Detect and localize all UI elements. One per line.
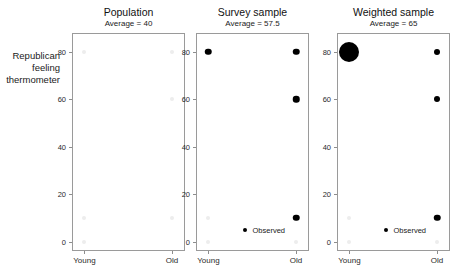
y-tick-mark (334, 147, 337, 148)
y-tick-mark (193, 194, 196, 195)
legend: Observed (243, 226, 285, 235)
x-tick-label: Old (431, 256, 443, 265)
y-tick-mark (69, 99, 72, 100)
legend-marker-icon (243, 228, 247, 232)
legend-label: Observed (393, 226, 426, 235)
legend-label: Observed (252, 226, 285, 235)
y-tick-mark (69, 147, 72, 148)
chart-panel: Weighted sampleAverage = 65020406080Youn… (337, 0, 450, 274)
data-point-observed (205, 49, 212, 56)
x-tick-mark (437, 251, 438, 254)
y-tick-mark (334, 99, 337, 100)
plot-area (72, 33, 185, 251)
data-point-population (435, 240, 439, 244)
legend: Observed (384, 226, 426, 235)
data-point-population (82, 50, 86, 54)
x-tick-mark (349, 251, 350, 254)
data-point-observed (434, 49, 440, 55)
data-point-observed (293, 96, 300, 103)
data-point-population (170, 216, 174, 220)
data-point-population (294, 240, 298, 244)
y-tick-mark (69, 242, 72, 243)
y-tick-label: 0 (50, 237, 66, 246)
y-tick-label: 20 (315, 190, 331, 199)
y-tick-mark (193, 99, 196, 100)
y-tick-label: 80 (50, 47, 66, 56)
panel-average-label: Average = 57.5 (196, 19, 309, 28)
chart-panel: PopulationAverage = 40020406080YoungOld (72, 0, 185, 274)
y-tick-mark (193, 52, 196, 53)
chart-panel: Survey sampleAverage = 57.5020406080Youn… (196, 0, 309, 274)
data-point-observed (434, 215, 441, 222)
figure-canvas: Republican feeling thermometer Populatio… (0, 0, 454, 274)
y-tick-label: 80 (315, 47, 331, 56)
y-tick-label: 40 (315, 142, 331, 151)
data-point-population (206, 240, 210, 244)
y-tick-label: 0 (315, 237, 331, 246)
data-point-observed (434, 96, 440, 102)
panel-title: Weighted sample (337, 6, 450, 18)
panel-title: Population (72, 6, 185, 18)
data-point-observed (293, 215, 300, 222)
data-point-observed (293, 49, 300, 56)
x-tick-label: Old (290, 256, 302, 265)
y-tick-label: 60 (50, 95, 66, 104)
y-tick-label: 80 (174, 47, 190, 56)
data-point-population (347, 216, 351, 220)
x-tick-label: Young (338, 256, 360, 265)
y-tick-mark (69, 194, 72, 195)
y-tick-mark (69, 52, 72, 53)
data-point-observed (339, 42, 359, 62)
x-tick-label: Young (73, 256, 95, 265)
legend-marker-icon (384, 228, 388, 232)
y-tick-label: 40 (50, 142, 66, 151)
x-tick-label: Young (197, 256, 219, 265)
x-tick-mark (172, 251, 173, 254)
panel-average-label: Average = 65 (337, 19, 450, 28)
y-tick-label: 0 (174, 237, 190, 246)
data-point-population (82, 216, 86, 220)
y-tick-label: 20 (174, 190, 190, 199)
y-tick-mark (193, 147, 196, 148)
data-point-population (206, 216, 210, 220)
y-tick-mark (334, 52, 337, 53)
y-tick-label: 60 (174, 95, 190, 104)
x-tick-mark (84, 251, 85, 254)
y-tick-mark (193, 242, 196, 243)
panel-title: Survey sample (196, 6, 309, 18)
panel-average-label: Average = 40 (72, 19, 185, 28)
y-tick-label: 20 (50, 190, 66, 199)
y-tick-label: 60 (315, 95, 331, 104)
data-point-population (82, 240, 86, 244)
y-tick-mark (334, 242, 337, 243)
y-tick-mark (334, 194, 337, 195)
x-tick-label: Old (166, 256, 178, 265)
x-tick-mark (296, 251, 297, 254)
data-point-population (347, 240, 351, 244)
x-tick-mark (208, 251, 209, 254)
y-tick-label: 40 (174, 142, 190, 151)
